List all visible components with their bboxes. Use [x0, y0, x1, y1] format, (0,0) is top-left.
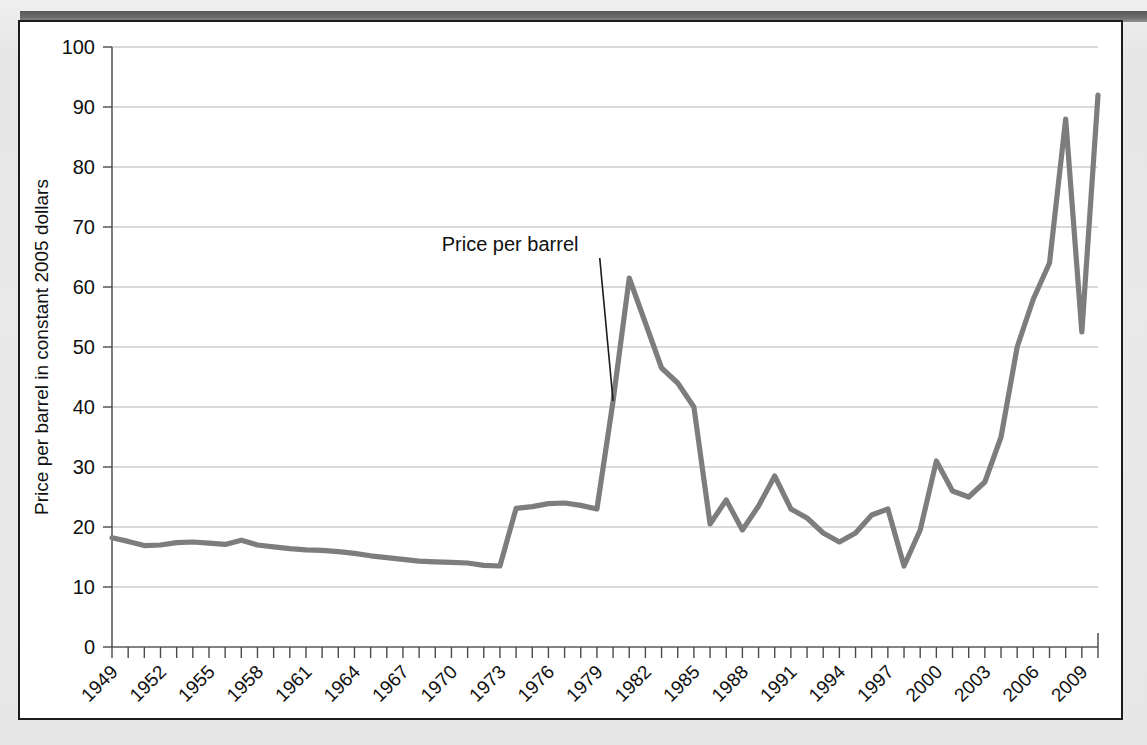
y-tick-label: 60 — [73, 276, 95, 298]
x-tick-label: 1991 — [756, 661, 801, 706]
annotation-label: Price per barrel — [442, 233, 579, 255]
x-tick-label: 2003 — [950, 661, 995, 706]
chart-card: 0102030405060708090100 19491952195519581… — [18, 20, 1123, 720]
x-tick-label: 1970 — [417, 661, 462, 706]
x-tick-label: 1982 — [610, 661, 655, 706]
annotation-leader-line — [600, 258, 613, 401]
y-tick-label: 30 — [73, 456, 95, 478]
x-tick-label: 1997 — [853, 661, 898, 706]
x-tick-label: 2009 — [1047, 661, 1092, 706]
y-axis-title: Price per barrel in constant 2005 dollar… — [31, 179, 52, 515]
data-series-group — [112, 95, 1098, 566]
annotations-group: Price per barrel — [442, 233, 613, 401]
x-tick-label: 2000 — [901, 661, 946, 706]
chart-inner: 0102030405060708090100 19491952195519581… — [20, 22, 1121, 718]
y-tick-label: 80 — [73, 156, 95, 178]
data-line-price-per-barrel — [112, 95, 1098, 566]
y-tick-label: 70 — [73, 216, 95, 238]
x-tick-label: 1979 — [562, 661, 607, 706]
x-tick-label: 1994 — [804, 661, 849, 706]
y-tick-label: 90 — [73, 96, 95, 118]
y-axis-label-group: Price per barrel in constant 2005 dollar… — [31, 179, 52, 515]
price-per-barrel-line-chart: 0102030405060708090100 19491952195519581… — [20, 22, 1121, 718]
x-tick-label: 1964 — [320, 661, 365, 706]
x-tick-label: 1976 — [514, 661, 559, 706]
x-tick-label: 1955 — [174, 661, 219, 706]
y-tick-label: 20 — [73, 516, 95, 538]
x-tick-label: 1988 — [707, 661, 752, 706]
x-tick-label: 1949 — [77, 661, 122, 706]
y-tick-label: 0 — [84, 636, 95, 658]
x-tick-label: 1958 — [223, 661, 268, 706]
x-tick-label: 1961 — [271, 661, 316, 706]
x-tick-label: 1973 — [465, 661, 510, 706]
x-tick-label: 1967 — [368, 661, 413, 706]
x-tick-label: 1985 — [659, 661, 704, 706]
x-tick-label: 2006 — [998, 661, 1043, 706]
y-tick-label: 50 — [73, 336, 95, 358]
y-tick-label: 100 — [62, 36, 95, 58]
y-axis-ticks-group: 0102030405060708090100 — [62, 36, 112, 658]
y-tick-label: 40 — [73, 396, 95, 418]
x-axis-ticks-group: 1949195219551958196119641967197019731976… — [77, 647, 1098, 706]
y-tick-label: 10 — [73, 576, 95, 598]
x-tick-label: 1952 — [126, 661, 171, 706]
